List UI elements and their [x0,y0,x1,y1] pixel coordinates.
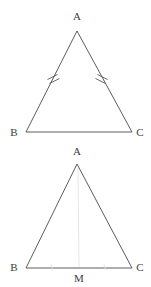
upper-triangle-panel: A B C [10,10,143,138]
figure-canvas: A B C A B C M [0,0,151,287]
tick-stroke [50,79,60,84]
geometry-figure: A B C A B C M [0,0,151,287]
tick-mark-side-bm [51,265,53,271]
vertex-label-b-lower: B [10,261,17,273]
upper-triangle-outline [26,31,132,132]
tick-mark-side-mc [104,265,106,271]
vertex-label-c-upper: C [136,126,143,138]
tick-stroke [104,265,106,271]
vertex-label-a-lower: A [73,145,81,157]
midpoint-label-m: M [74,272,84,284]
lower-triangle-panel: A B C M [10,145,143,284]
vertex-label-c-lower: C [136,261,143,273]
vertex-label-b-upper: B [10,126,17,138]
tick-stroke [51,265,53,271]
tick-mark-side-ab [48,75,60,84]
vertex-label-a-upper: A [73,10,81,22]
median-line-am [78,168,79,267]
